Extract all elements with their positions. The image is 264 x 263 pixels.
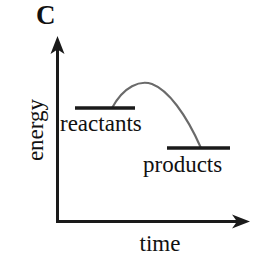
products-label: products — [143, 153, 222, 176]
panel-letter: C — [36, 2, 56, 29]
reactants-label: reactants — [60, 112, 142, 135]
x-axis-label: time — [140, 232, 181, 255]
x-axis — [56, 215, 250, 229]
y-axis-label: energy — [24, 99, 47, 161]
reaction-energy-diagram: C energy time reactants products — [0, 0, 264, 263]
